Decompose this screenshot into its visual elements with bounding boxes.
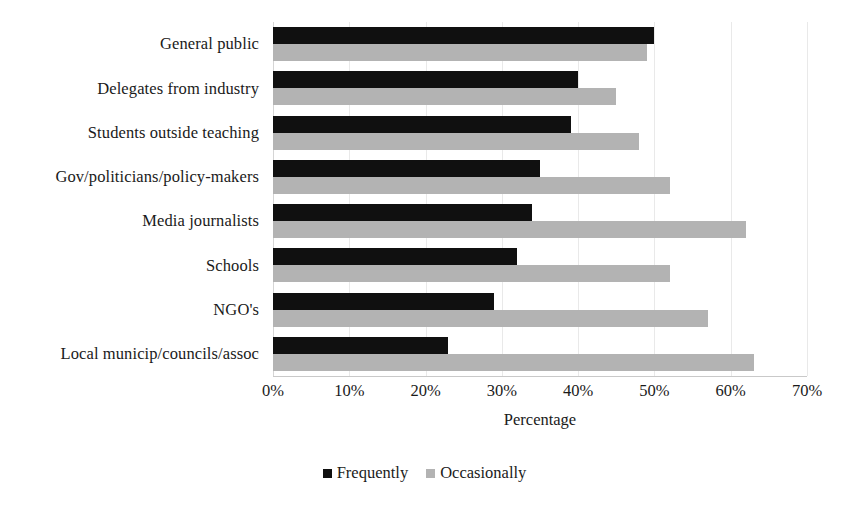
legend-item: Frequently (323, 463, 409, 483)
category-label: NGO's (8, 288, 266, 332)
bar-occasionally (273, 177, 670, 194)
x-tick-label: 60% (716, 381, 746, 401)
x-tick-label: 30% (487, 381, 517, 401)
plot-area (273, 22, 807, 376)
legend-label: Occasionally (440, 463, 526, 483)
bar-frequently (273, 204, 532, 221)
legend-swatch-icon (323, 469, 332, 478)
x-tick-label: 10% (334, 381, 364, 401)
legend-swatch-icon (426, 469, 435, 478)
x-tick-label: 20% (410, 381, 440, 401)
chart-legend: FrequentlyOccasionally (0, 463, 849, 483)
bar-occasionally (273, 265, 670, 282)
bar-frequently (273, 27, 654, 44)
bar-frequently (273, 293, 494, 310)
category-axis: General publicDelegates from industryStu… (8, 22, 266, 376)
category-label: Students outside teaching (8, 111, 266, 155)
bar-frequently (273, 71, 578, 88)
bar-group (273, 111, 807, 155)
x-tick-label: 70% (792, 381, 822, 401)
bar-frequently (273, 337, 448, 354)
bar-frequently (273, 116, 571, 133)
category-label: Gov/politicians/policy-makers (8, 155, 266, 199)
category-label: Local municip/councils/assoc (8, 332, 266, 376)
bar-occasionally (273, 88, 616, 105)
bar-group (273, 243, 807, 287)
x-tick-label: 0% (262, 381, 284, 401)
x-axis-line (273, 376, 807, 377)
x-axis-ticks: 0%10%20%30%40%50%60%70% (273, 381, 807, 407)
category-label: Schools (8, 243, 266, 287)
bar-group (273, 288, 807, 332)
bar-chart: General publicDelegates from industryStu… (0, 0, 849, 517)
x-tick-label: 50% (639, 381, 669, 401)
legend-item: Occasionally (426, 463, 526, 483)
bar-occasionally (273, 354, 754, 371)
category-label: General public (8, 22, 266, 66)
x-axis-title: Percentage (273, 410, 807, 430)
bar-occasionally (273, 44, 647, 61)
category-label: Media journalists (8, 199, 266, 243)
bar-group (273, 199, 807, 243)
bar-group (273, 22, 807, 66)
gridline (807, 22, 808, 376)
bar-occasionally (273, 133, 639, 150)
bar-occasionally (273, 310, 708, 327)
bar-groups (273, 22, 807, 376)
bar-group (273, 332, 807, 376)
x-tick-label: 40% (563, 381, 593, 401)
bar-frequently (273, 248, 517, 265)
legend-label: Frequently (337, 463, 409, 483)
bar-frequently (273, 160, 540, 177)
bar-occasionally (273, 221, 746, 238)
bar-group (273, 155, 807, 199)
bar-group (273, 66, 807, 110)
category-label: Delegates from industry (8, 66, 266, 110)
